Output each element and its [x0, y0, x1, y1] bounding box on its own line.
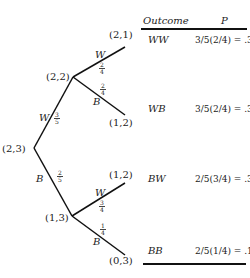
- branch-prob-root-w: 35: [53, 112, 61, 125]
- outcome-ww: WW: [148, 34, 169, 45]
- branch-label-w-w: W: [95, 50, 105, 60]
- branch-prob-w-w: 24: [98, 62, 106, 75]
- branch-prob-w-b: 24: [99, 83, 107, 96]
- outcome-bb: BB: [148, 245, 163, 256]
- branch-label-b-b: B: [93, 237, 100, 247]
- branch-label-root-w: W: [39, 113, 49, 123]
- branch-prob-b-b: 14: [99, 223, 107, 236]
- node-bb: (0,3): [109, 256, 133, 266]
- node-wb: (1,2): [109, 118, 133, 128]
- header-rule: [141, 28, 247, 30]
- prob-wb: 3/5(2/4) = .3: [195, 104, 250, 114]
- branch-prob-root-b: 25: [56, 170, 64, 183]
- prob-bb: 2/5(1/4) = .1: [195, 246, 250, 256]
- branch-label-root-b: B: [36, 174, 43, 184]
- node-w: (2,2): [46, 72, 70, 82]
- outcome-bw: BW: [148, 173, 166, 184]
- node-b: (1,3): [45, 213, 69, 223]
- branch-label-b-w: W: [95, 188, 105, 198]
- node-root: (2,3): [2, 144, 26, 154]
- prob-bw: 2/5(3/4) = .3: [195, 174, 250, 184]
- branch-prob-b-w: 34: [98, 200, 106, 213]
- footer-rule: [143, 263, 246, 265]
- header-p: P: [221, 15, 228, 26]
- branch-label-w-b: B: [93, 97, 100, 107]
- header-outcome: Outcome: [143, 15, 189, 26]
- node-bw: (1,2): [109, 170, 133, 180]
- node-ww: (2,1): [109, 30, 133, 40]
- outcome-wb: WB: [148, 103, 166, 114]
- prob-ww: 3/5(2/4) = .3: [195, 35, 250, 45]
